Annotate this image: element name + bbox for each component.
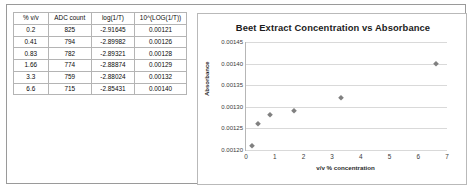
data-point-marker xyxy=(249,143,255,149)
cell-adc-count: 759 xyxy=(48,71,91,83)
x-axis-tick-label: 4 xyxy=(359,153,363,160)
cell-log-1-t: -2.88874 xyxy=(91,60,134,72)
column-header-pow-log-1-t: 10^(LOG(1/T)) xyxy=(135,13,187,25)
data-point-marker xyxy=(432,60,438,66)
y-axis-tick-label: 0.00135 xyxy=(221,82,243,88)
gridline-horizontal xyxy=(246,128,447,129)
x-axis-tick-label: 1 xyxy=(273,153,277,160)
cell-percent-vv: 6.6 xyxy=(14,83,49,95)
data-table-container: % v/v ADC count log(1/T) 10^(LOG(1/T)) 0… xyxy=(13,12,187,95)
document-panel: % v/v ADC count log(1/T) 10^(LOG(1/T)) 0… xyxy=(6,4,466,184)
x-axis-tick-label: 2 xyxy=(302,153,306,160)
table-row: 0.2 825 -2.91645 0.00121 xyxy=(14,24,187,36)
x-axis-tick-label: 5 xyxy=(388,153,392,160)
x-axis-tick-label: 6 xyxy=(417,153,421,160)
gridline-horizontal xyxy=(246,64,447,65)
chart-title: Beet Extract Concentration vs Absorbance xyxy=(198,22,468,33)
x-axis-tick-label: 3 xyxy=(330,153,334,160)
cell-log-1-t: -2.85431 xyxy=(91,83,134,95)
x-axis-tick-label: 0 xyxy=(244,153,248,160)
cell-percent-vv: 3.3 xyxy=(14,71,49,83)
cell-log-1-t: -2.89321 xyxy=(91,48,134,60)
cell-adc-count: 794 xyxy=(48,36,91,48)
y-axis-title: Absorbance xyxy=(204,61,210,96)
cell-pow-log-1-t: 0.00129 xyxy=(135,60,187,72)
column-header-log-1-t: log(1/T) xyxy=(91,13,134,25)
table-row: 0.41 794 -2.89982 0.00126 xyxy=(14,36,187,48)
data-point-marker xyxy=(267,112,273,118)
column-header-percent-vv: % v/v xyxy=(14,13,49,25)
cell-pow-log-1-t: 0.00126 xyxy=(135,36,187,48)
table-row: 0.83 782 -2.89321 0.00128 xyxy=(14,48,187,60)
cell-adc-count: 782 xyxy=(48,48,91,60)
x-axis-title: v/v % concentration xyxy=(245,164,446,171)
column-header-adc-count: ADC count xyxy=(48,13,91,25)
y-axis-tick-label: 0.00145 xyxy=(221,39,243,45)
y-axis-tick-label: 0.00125 xyxy=(221,125,243,131)
gridline-horizontal xyxy=(246,107,447,108)
table-row: 3.3 759 -2.88024 0.00132 xyxy=(14,71,187,83)
data-point-marker xyxy=(338,95,344,101)
absorbance-data-table: % v/v ADC count log(1/T) 10^(LOG(1/T)) 0… xyxy=(13,12,187,95)
gridline-horizontal xyxy=(246,85,447,86)
data-point-marker xyxy=(255,121,261,127)
x-axis-tick-label: 7 xyxy=(445,153,449,160)
cell-adc-count: 774 xyxy=(48,60,91,72)
y-axis-tick-label: 0.00120 xyxy=(221,147,243,153)
data-point-marker xyxy=(291,108,297,114)
table-row: 6.6 715 -2.85431 0.00140 xyxy=(14,83,187,95)
cell-percent-vv: 1.66 xyxy=(14,60,49,72)
cell-pow-log-1-t: 0.00121 xyxy=(135,24,187,36)
cell-log-1-t: -2.88024 xyxy=(91,71,134,83)
y-axis-tick-label: 0.00140 xyxy=(221,61,243,67)
cell-percent-vv: 0.2 xyxy=(14,24,49,36)
cell-pow-log-1-t: 0.00128 xyxy=(135,48,187,60)
cell-adc-count: 825 xyxy=(48,24,91,36)
chart-panel: Beet Extract Concentration vs Absorbance… xyxy=(197,13,467,185)
cell-percent-vv: 0.83 xyxy=(14,48,49,60)
cell-pow-log-1-t: 0.00132 xyxy=(135,71,187,83)
screenshot-root: % v/v ADC count log(1/T) 10^(LOG(1/T)) 0… xyxy=(0,0,473,193)
gridline-horizontal xyxy=(246,150,447,151)
y-axis-tick-label: 0.00130 xyxy=(221,104,243,110)
cell-log-1-t: -2.89982 xyxy=(91,36,134,48)
table-header-row: % v/v ADC count log(1/T) 10^(LOG(1/T)) xyxy=(14,13,187,25)
plot-area: 0.001200.001250.001300.001350.001400.001… xyxy=(245,42,447,151)
cell-log-1-t: -2.91645 xyxy=(91,24,134,36)
table-row: 1.66 774 -2.88874 0.00129 xyxy=(14,60,187,72)
cell-pow-log-1-t: 0.00140 xyxy=(135,83,187,95)
cell-percent-vv: 0.41 xyxy=(14,36,49,48)
cell-adc-count: 715 xyxy=(48,83,91,95)
gridline-horizontal xyxy=(246,42,447,43)
